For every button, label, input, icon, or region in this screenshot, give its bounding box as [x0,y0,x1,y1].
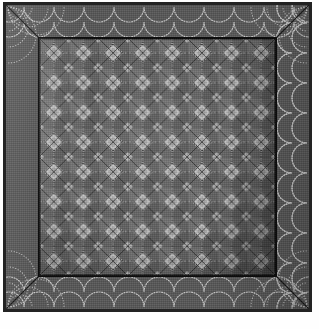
pieced-block-grid [39,38,276,276]
quilt [3,2,312,312]
quilt-center-field [39,38,276,276]
image-canvas: Dark geometric patchwork quilt photograp… [0,0,319,329]
